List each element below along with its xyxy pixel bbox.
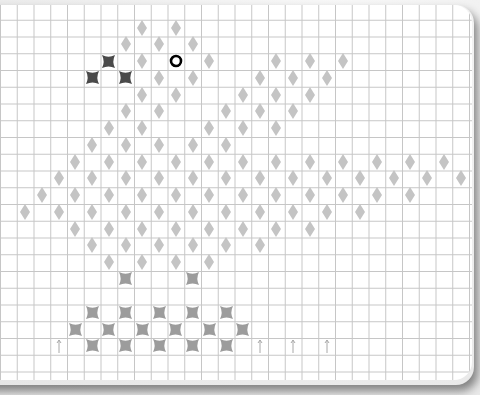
- diamond-icon[interactable]: [352, 204, 368, 220]
- diamond-icon[interactable]: [118, 36, 134, 52]
- diamond-icon[interactable]: [151, 36, 167, 52]
- diamond-icon[interactable]: [84, 137, 100, 153]
- diamond-icon[interactable]: [218, 204, 234, 220]
- cross-marker-icon[interactable]: [84, 338, 100, 354]
- diamond-icon[interactable]: [352, 170, 368, 186]
- arrow-up-icon[interactable]: [51, 338, 67, 354]
- diamond-icon[interactable]: [151, 170, 167, 186]
- diamond-icon[interactable]: [302, 154, 318, 170]
- diamond-icon[interactable]: [402, 154, 418, 170]
- diamond-icon[interactable]: [268, 221, 284, 237]
- diamond-icon[interactable]: [252, 204, 268, 220]
- diamond-icon[interactable]: [201, 221, 217, 237]
- diamond-icon[interactable]: [185, 137, 201, 153]
- diamond-icon[interactable]: [402, 187, 418, 203]
- diamond-icon[interactable]: [101, 187, 117, 203]
- diamond-icon[interactable]: [118, 204, 134, 220]
- diamond-icon[interactable]: [134, 221, 150, 237]
- diamond-icon[interactable]: [252, 70, 268, 86]
- diamond-icon[interactable]: [151, 137, 167, 153]
- cross-marker-icon[interactable]: [185, 271, 201, 287]
- arrow-up-icon[interactable]: [319, 338, 335, 354]
- diamond-icon[interactable]: [101, 254, 117, 270]
- diamond-icon[interactable]: [302, 221, 318, 237]
- diamond-icon[interactable]: [168, 20, 184, 36]
- diamond-icon[interactable]: [185, 204, 201, 220]
- diamond-icon[interactable]: [218, 103, 234, 119]
- diamond-icon[interactable]: [51, 204, 67, 220]
- arrow-up-icon[interactable]: [252, 338, 268, 354]
- cross-marker-icon[interactable]: [134, 321, 150, 337]
- diamond-icon[interactable]: [235, 221, 251, 237]
- diamond-icon[interactable]: [319, 170, 335, 186]
- diamond-icon[interactable]: [268, 87, 284, 103]
- diamond-icon[interactable]: [34, 187, 50, 203]
- diamond-icon[interactable]: [134, 187, 150, 203]
- cross-marker-icon[interactable]: [218, 304, 234, 320]
- diamond-icon[interactable]: [168, 221, 184, 237]
- diamond-icon[interactable]: [168, 154, 184, 170]
- diamond-icon[interactable]: [84, 204, 100, 220]
- diamond-icon[interactable]: [51, 170, 67, 186]
- enemy-cross-icon[interactable]: [101, 53, 117, 69]
- diamond-icon[interactable]: [285, 204, 301, 220]
- diamond-icon[interactable]: [118, 137, 134, 153]
- diamond-icon[interactable]: [67, 187, 83, 203]
- diamond-icon[interactable]: [335, 53, 351, 69]
- cross-marker-icon[interactable]: [185, 338, 201, 354]
- diamond-icon[interactable]: [268, 53, 284, 69]
- diamond-icon[interactable]: [185, 36, 201, 52]
- diamond-icon[interactable]: [151, 204, 167, 220]
- diamond-icon[interactable]: [319, 70, 335, 86]
- diamond-icon[interactable]: [134, 53, 150, 69]
- diamond-icon[interactable]: [252, 103, 268, 119]
- game-board[interactable]: [0, 5, 472, 380]
- diamond-icon[interactable]: [369, 187, 385, 203]
- diamond-icon[interactable]: [185, 170, 201, 186]
- diamond-icon[interactable]: [151, 103, 167, 119]
- diamond-icon[interactable]: [134, 87, 150, 103]
- diamond-icon[interactable]: [201, 187, 217, 203]
- diamond-icon[interactable]: [201, 120, 217, 136]
- diamond-icon[interactable]: [453, 170, 469, 186]
- cross-marker-icon[interactable]: [201, 321, 217, 337]
- cross-marker-icon[interactable]: [118, 304, 134, 320]
- diamond-icon[interactable]: [151, 237, 167, 253]
- diamond-icon[interactable]: [419, 170, 435, 186]
- diamond-icon[interactable]: [101, 120, 117, 136]
- diamond-icon[interactable]: [84, 170, 100, 186]
- diamond-icon[interactable]: [118, 170, 134, 186]
- cross-marker-icon[interactable]: [151, 338, 167, 354]
- diamond-icon[interactable]: [84, 237, 100, 253]
- enemy-cross-icon[interactable]: [118, 70, 134, 86]
- cross-marker-icon[interactable]: [218, 338, 234, 354]
- diamond-icon[interactable]: [101, 221, 117, 237]
- cross-marker-icon[interactable]: [185, 304, 201, 320]
- diamond-icon[interactable]: [235, 120, 251, 136]
- player-ring-icon[interactable]: [168, 53, 184, 69]
- diamond-icon[interactable]: [185, 237, 201, 253]
- cross-marker-icon[interactable]: [101, 321, 117, 337]
- diamond-icon[interactable]: [134, 254, 150, 270]
- arrow-up-icon[interactable]: [285, 338, 301, 354]
- diamond-icon[interactable]: [252, 237, 268, 253]
- diamond-icon[interactable]: [67, 221, 83, 237]
- diamond-icon[interactable]: [235, 87, 251, 103]
- diamond-icon[interactable]: [17, 204, 33, 220]
- cross-marker-icon[interactable]: [118, 271, 134, 287]
- diamond-icon[interactable]: [168, 187, 184, 203]
- cross-marker-icon[interactable]: [118, 338, 134, 354]
- diamond-icon[interactable]: [118, 103, 134, 119]
- diamond-icon[interactable]: [268, 154, 284, 170]
- diamond-icon[interactable]: [201, 154, 217, 170]
- diamond-icon[interactable]: [151, 70, 167, 86]
- cross-marker-icon[interactable]: [151, 304, 167, 320]
- enemy-cross-icon[interactable]: [84, 70, 100, 86]
- diamond-icon[interactable]: [302, 53, 318, 69]
- diamond-icon[interactable]: [235, 154, 251, 170]
- diamond-icon[interactable]: [319, 204, 335, 220]
- cross-marker-icon[interactable]: [67, 321, 83, 337]
- diamond-icon[interactable]: [335, 187, 351, 203]
- diamond-icon[interactable]: [436, 154, 452, 170]
- diamond-icon[interactable]: [335, 154, 351, 170]
